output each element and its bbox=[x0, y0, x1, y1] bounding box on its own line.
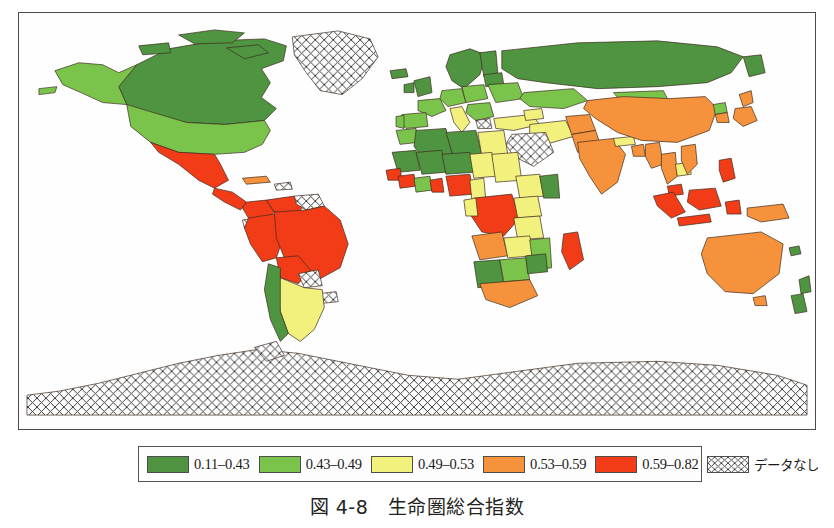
region-guinea bbox=[398, 174, 416, 188]
region-iceland bbox=[390, 69, 408, 79]
legend-swatch-no-data bbox=[707, 456, 749, 473]
region-ghana bbox=[430, 178, 444, 192]
region-somalia bbox=[540, 174, 560, 198]
legend-label-class-3: 0.49–0.53 bbox=[418, 456, 474, 473]
region-south-korea bbox=[715, 113, 729, 123]
figure-caption: 図 4-8 生命圏総合指数 bbox=[0, 492, 834, 519]
region-sulawesi bbox=[725, 200, 741, 214]
legend-label-class-2: 0.43–0.49 bbox=[306, 456, 362, 473]
region-niger bbox=[442, 152, 474, 174]
legend-item-class-1: 0.11–0.43 bbox=[147, 456, 250, 473]
legend-item-class-5: 0.59–0.82 bbox=[595, 456, 698, 473]
legend-label-class-1: 0.11–0.43 bbox=[194, 456, 250, 473]
region-bangladesh bbox=[631, 144, 645, 156]
region-uganda-kenya bbox=[514, 196, 542, 218]
region-portugal bbox=[396, 116, 404, 129]
figure-container: 0.11–0.43 0.43–0.49 0.49–0.53 0.53–0.59 … bbox=[0, 0, 834, 528]
region-zimbabwe bbox=[526, 254, 548, 274]
region-russia bbox=[502, 41, 743, 89]
region-new-caledonia bbox=[789, 246, 801, 256]
legend-swatch-class-1 bbox=[147, 456, 189, 473]
map-legend: 0.11–0.43 0.43–0.49 0.49–0.53 0.53–0.59 … bbox=[138, 446, 702, 482]
region-ethiopia bbox=[516, 174, 544, 198]
region-cote-divoire bbox=[414, 176, 432, 192]
legend-swatch-class-3 bbox=[371, 456, 413, 473]
legend-label-class-5: 0.59–0.82 bbox=[642, 456, 698, 473]
legend-item-class-4: 0.53–0.59 bbox=[483, 456, 586, 473]
hatch-pattern-icon bbox=[708, 457, 748, 472]
region-botswana bbox=[500, 258, 530, 282]
region-caucasus bbox=[524, 109, 544, 121]
region-greece bbox=[476, 118, 492, 128]
world-map bbox=[19, 13, 815, 429]
legend-swatch-class-4 bbox=[483, 456, 525, 473]
region-egypt bbox=[478, 130, 508, 156]
legend-swatch-class-2 bbox=[259, 456, 301, 473]
legend-swatch-class-5 bbox=[595, 456, 637, 473]
region-nigeria bbox=[446, 174, 474, 196]
world-map-frame bbox=[18, 12, 816, 430]
legend-item-class-2: 0.43–0.49 bbox=[259, 456, 362, 473]
region-tasmania bbox=[753, 296, 767, 306]
region-nepal bbox=[614, 136, 636, 146]
region-zambia bbox=[504, 236, 534, 258]
legend-label-no-data: データなし bbox=[754, 454, 819, 474]
region-gabon bbox=[464, 198, 478, 216]
region-ireland bbox=[404, 83, 414, 93]
legend-item-no-data: データなし bbox=[707, 454, 819, 474]
legend-label-class-4: 0.53–0.59 bbox=[530, 456, 586, 473]
legend-item-class-3: 0.49–0.53 bbox=[371, 456, 474, 473]
